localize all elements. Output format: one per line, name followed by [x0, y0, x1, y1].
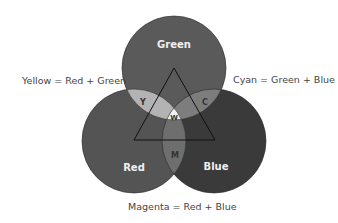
cyan-caption: Cyan = Green + Blue — [233, 74, 335, 85]
cyan-letter: C — [202, 98, 208, 107]
magenta-letter: M — [171, 151, 179, 160]
blue-label: Blue — [204, 161, 229, 172]
magenta-caption: Magenta = Red + Blue — [128, 201, 237, 212]
yellow-letter: Y — [139, 98, 146, 107]
rgb-venn-diagram: Green Red Blue Y C M W Yellow = Red + Gr… — [0, 0, 338, 223]
white-letter: W — [170, 114, 178, 122]
yellow-caption: Yellow = Red + Green — [21, 75, 126, 86]
green-label: Green — [157, 39, 191, 50]
red-label: Red — [123, 162, 145, 173]
